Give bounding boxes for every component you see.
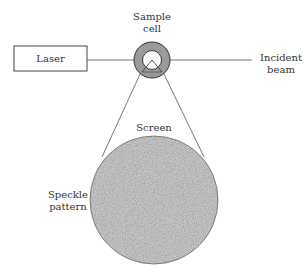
laser-label: Laser: [14, 53, 87, 65]
speckle-label-line2: pattern: [44, 201, 92, 213]
incident-beam-label: Incident beam: [255, 52, 307, 76]
sample-cell-label-line1: Sample: [122, 11, 182, 23]
screen-label: Screen: [124, 122, 184, 134]
speckle-label-line1: Speckle: [44, 189, 92, 201]
speckle-pattern-label: Speckle pattern: [44, 189, 92, 213]
sample-cell-icon: [134, 42, 170, 78]
incident-beam-label-line2: beam: [255, 64, 307, 76]
sample-cell-label: Sample cell: [122, 11, 182, 35]
speckle-screen: [90, 136, 218, 264]
diagram-canvas: [0, 0, 308, 276]
incident-beam-label-line1: Incident: [255, 52, 307, 64]
sample-cell-label-line2: cell: [122, 23, 182, 35]
